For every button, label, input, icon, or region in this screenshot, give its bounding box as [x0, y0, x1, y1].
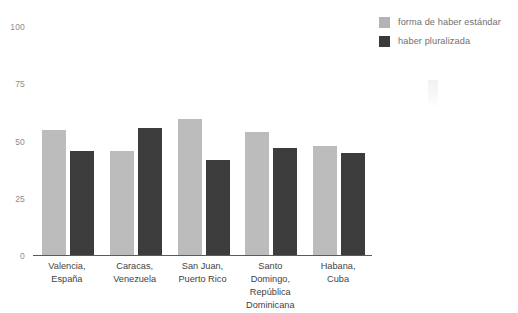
x-axis-label-line: Puerto Rico: [164, 273, 242, 286]
bars-layer: [33, 27, 372, 256]
bar-standard: [245, 132, 269, 256]
bar-group: [236, 27, 304, 256]
legend-swatch-icon: [379, 36, 390, 47]
legend-label: haber pluralizada: [398, 36, 470, 47]
x-axis-label-line: Cuba: [299, 273, 377, 286]
legend-swatch-icon: [379, 17, 390, 28]
x-axis-label-line: Santo: [231, 260, 309, 273]
x-axis-label-line: Domingo,: [231, 273, 309, 286]
x-axis-label-line: Habana,: [299, 260, 377, 273]
bar-standard: [313, 146, 337, 256]
bar-chart: 100 75 50 25 0 Valencia,EspañaCaracas,Ve…: [0, 0, 518, 313]
x-axis-label-line: Dominicana: [231, 299, 309, 312]
y-axis-tick-75: 75: [15, 79, 25, 89]
bar-pluralized: [206, 160, 230, 256]
y-axis-tick-50: 50: [15, 137, 25, 147]
bar-standard: [110, 151, 134, 256]
bar-pluralized: [70, 151, 94, 256]
x-axis-label-line: España: [28, 273, 106, 286]
x-axis-label-line: San Juan,: [164, 260, 242, 273]
bar-standard: [42, 130, 66, 256]
scan-artifact: [428, 80, 438, 106]
bar-group: [304, 27, 372, 256]
legend-item[interactable]: haber pluralizada: [379, 36, 511, 47]
x-axis-label-line: Caracas,: [96, 260, 174, 273]
bar-pluralized: [341, 153, 365, 256]
x-axis-label-line: República: [231, 286, 309, 299]
bar-pluralized: [273, 148, 297, 256]
x-axis-label: San Juan,Puerto Rico: [164, 260, 242, 286]
bar-pluralized: [138, 128, 162, 256]
x-axis-label: Caracas,Venezuela: [96, 260, 174, 286]
y-axis-tick-25: 25: [15, 194, 25, 204]
legend-label: forma de haber estándar: [398, 17, 501, 28]
legend-item[interactable]: forma de haber estándar: [379, 17, 511, 28]
bar-group: [169, 27, 237, 256]
legend: forma de haber estándarhaber pluralizada: [379, 17, 511, 55]
x-axis-label-line: Venezuela: [96, 273, 174, 286]
y-axis-tick-100: 100: [10, 22, 25, 32]
x-axis-label-line: Valencia,: [28, 260, 106, 273]
bar-standard: [178, 119, 202, 256]
bar-group: [101, 27, 169, 256]
y-axis-tick-0: 0: [20, 251, 25, 261]
x-axis-label: Valencia,España: [28, 260, 106, 286]
bar-group: [33, 27, 101, 256]
x-axis-label: SantoDomingo,RepúblicaDominicana: [231, 260, 309, 312]
x-axis-line: [33, 255, 372, 256]
x-axis-label: Habana,Cuba: [299, 260, 377, 286]
